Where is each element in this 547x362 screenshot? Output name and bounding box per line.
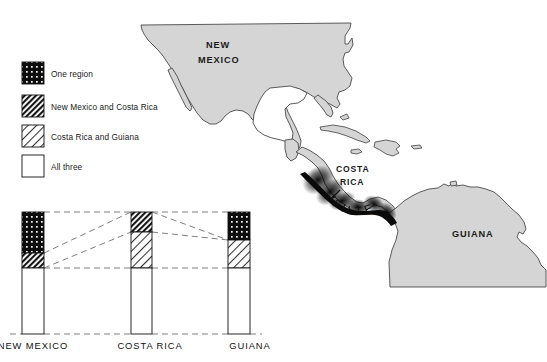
legend-label-new-mexico-costa-rica: New Mexico and Costa Rica (51, 102, 158, 112)
map-label-costa-rica-line2: RICA (340, 177, 364, 187)
island-jamaica (351, 149, 362, 154)
connector-fan-nm-cr-upper (44, 212, 131, 253)
legend-swatch-all-three (22, 155, 44, 177)
bar-new-mexico (22, 212, 44, 334)
legend-item-all-three: All three (22, 155, 83, 177)
island-hispaniola (374, 140, 400, 156)
legend-label-costa-rica-guiana: Costa Rica and Guiana (51, 132, 139, 142)
bar-label-guiana: GUIANA (229, 340, 270, 351)
stacked-bar-chart: NEW MEXICO COSTA RICA GUIANA (0, 212, 271, 351)
legend-label-all-three: All three (51, 162, 83, 172)
bar-segment-one-region-guiana (228, 212, 250, 240)
legend-swatch-costa-rica-guiana (22, 125, 44, 147)
bar-segment-all-three-costa-rica (131, 268, 152, 334)
north-america-landmass (141, 23, 353, 151)
map-label-guiana: GUIANA (452, 229, 494, 239)
connector-fan-nm-cr-lower (44, 232, 131, 268)
legend-item-one-region: One region (22, 62, 93, 84)
legend-label-one-region: One region (51, 69, 93, 79)
legend-item-new-mexico-costa-rica: New Mexico and Costa Rica (22, 95, 158, 117)
map-group: NEW MEXICO COSTA RICA GUIANA FILTER (0, 0, 546, 287)
legend-swatch-one-region (22, 62, 44, 84)
connector-fan-cr-gu-upper (152, 212, 228, 240)
bar-segment-cr-gu-costa-rica (131, 232, 152, 268)
island-bahamas (340, 114, 349, 120)
bar-segment-cr-gu-guiana (228, 240, 250, 268)
bar-label-new-mexico: NEW MEXICO (0, 340, 68, 351)
bar-segment-nm-cr-costa-rica (131, 212, 152, 232)
map-label-costa-rica-line1: COSTA (336, 164, 369, 174)
legend-item-costa-rica-guiana: Costa Rica and Guiana (22, 125, 139, 147)
bar-segment-one-region-new-mexico (22, 212, 44, 253)
legend-swatch-new-mexico-costa-rica (22, 95, 44, 117)
yucatan-peninsula (285, 139, 299, 161)
bar-segment-all-three-new-mexico (22, 268, 44, 334)
connector-fan-cr-gu-lower (152, 232, 228, 240)
map-label-new-mexico-line2: MEXICO (198, 55, 240, 65)
bar-segment-all-three-guiana (228, 268, 250, 334)
bar-guiana (228, 212, 250, 334)
island-puerto-rico (411, 145, 422, 149)
bar-segment-nm-cr-new-mexico (22, 253, 44, 268)
island-cuba (320, 125, 370, 143)
island-trinidad (450, 181, 457, 186)
bar-costa-rica (131, 212, 152, 334)
bar-label-costa-rica: COSTA RICA (117, 340, 182, 351)
map-label-new-mexico-line1: NEW (206, 40, 230, 50)
figure-root: NEW MEXICO COSTA RICA GUIANA FILTER One … (0, 0, 547, 362)
legend: One region New Mexico and Costa Rica Cos… (22, 62, 158, 177)
